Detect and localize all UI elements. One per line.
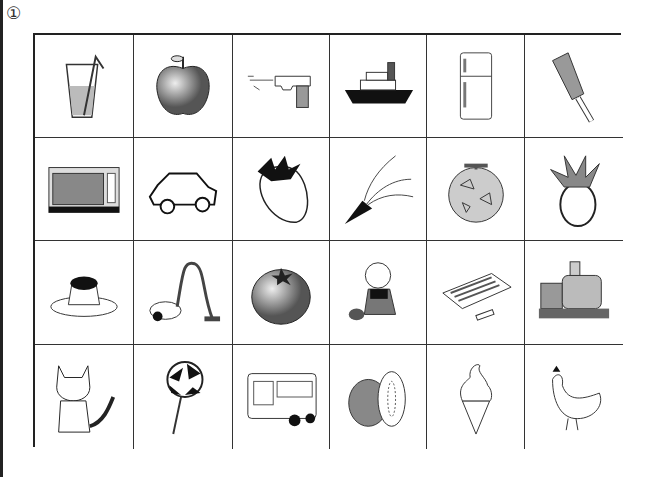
lollipop-icon — [144, 358, 222, 436]
cell-strawberry[interactable] — [233, 138, 330, 241]
ship-icon — [339, 47, 417, 125]
cell-doll[interactable] — [330, 241, 427, 345]
pudding-icon — [45, 254, 123, 332]
exercise-number: ① — [6, 3, 21, 23]
cell-pudding[interactable] — [35, 241, 134, 345]
melon-icon — [437, 150, 515, 228]
cell-ship[interactable] — [330, 35, 427, 138]
crayons-icon — [437, 254, 515, 332]
cell-melon[interactable] — [427, 138, 525, 241]
cell-chicken[interactable] — [525, 345, 623, 449]
cell-party-popper[interactable] — [330, 138, 427, 241]
cell-kitchen-knife[interactable] — [525, 35, 623, 138]
microwave-oven-icon — [45, 150, 123, 228]
cell-vacuum-cleaner[interactable] — [134, 241, 233, 345]
chicken-icon — [535, 358, 613, 436]
car-icon — [144, 150, 222, 228]
page-edge — [0, 0, 3, 477]
picture-grid — [33, 33, 621, 447]
cell-water-gun[interactable] — [233, 35, 330, 138]
pineapple-icon — [535, 150, 613, 228]
cell-bus[interactable] — [233, 345, 330, 449]
party-popper-icon — [339, 150, 417, 228]
cell-tomato[interactable] — [233, 241, 330, 345]
cell-apple[interactable] — [134, 35, 233, 138]
kiwi-icon — [339, 358, 417, 436]
cell-car[interactable] — [134, 138, 233, 241]
cell-pineapple[interactable] — [525, 138, 623, 241]
vacuum-cleaner-icon — [144, 254, 222, 332]
apple-icon — [144, 47, 222, 125]
cell-ice-cream[interactable] — [427, 345, 525, 449]
cell-kiwi[interactable] — [330, 345, 427, 449]
cat-icon — [45, 358, 123, 436]
ice-cream-icon — [437, 358, 515, 436]
cell-cat[interactable] — [35, 345, 134, 449]
refrigerator-icon — [437, 47, 515, 125]
cell-train[interactable] — [525, 241, 623, 345]
train-icon — [535, 254, 613, 332]
cell-crayons[interactable] — [427, 241, 525, 345]
cell-lollipop[interactable] — [134, 345, 233, 449]
water-gun-icon — [242, 47, 320, 125]
kitchen-knife-icon — [535, 47, 613, 125]
bus-icon — [242, 358, 320, 436]
cell-microwave-oven[interactable] — [35, 138, 134, 241]
cell-glass-of-juice[interactable] — [35, 35, 134, 138]
tomato-icon — [242, 254, 320, 332]
glass-of-juice-icon — [45, 47, 123, 125]
cell-refrigerator[interactable] — [427, 35, 525, 138]
strawberry-icon — [242, 150, 320, 228]
doll-icon — [339, 254, 417, 332]
